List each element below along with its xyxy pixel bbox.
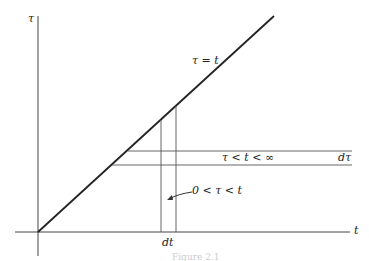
arrow-head-icon (167, 195, 173, 200)
diagram-canvas (0, 0, 369, 261)
tau-equals-t-line (38, 16, 274, 232)
line-label: τ = t (192, 54, 219, 67)
horizontal-strip-width-label: dτ (338, 151, 351, 164)
t-axis-label: t (354, 224, 358, 237)
vertical-strip-label: 0 < τ < t (192, 184, 242, 197)
vertical-strip-width-label: dt (162, 236, 173, 249)
figure-caption: Figure 2.1 (172, 252, 219, 261)
diagram-figure: τ t τ = t τ < t < ∞ dτ 0 < τ < t dt Figu… (0, 0, 369, 261)
horizontal-strip-label: τ < t < ∞ (222, 151, 274, 164)
tau-axis-label: τ (28, 12, 34, 25)
